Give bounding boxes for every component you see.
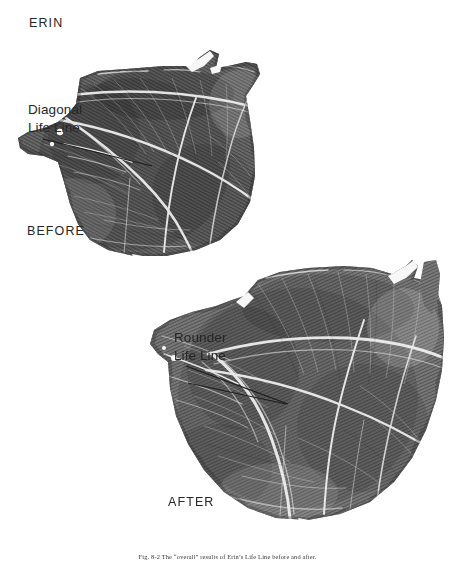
subject-name-label: ERIN [29, 16, 63, 32]
annotation-rounder-line2: Life Line [174, 348, 226, 363]
palm-print-figure: ERIN DiagonalLife Line BEFORE RounderLif… [0, 0, 455, 567]
annotation-rounder-line1: Rounder [174, 330, 227, 345]
annotation-diagonal-life-line: DiagonalLife Line [28, 101, 82, 136]
panel-label-after: AFTER [168, 495, 214, 511]
panel-label-before: BEFORE [27, 224, 85, 240]
annotation-diagonal-line1: Diagonal [28, 102, 82, 117]
annotation-rounder-life-line: RounderLife Line [174, 329, 227, 364]
figure-caption: Fig. 8-2 The “overall” results of Erin’s… [0, 553, 455, 567]
annotation-diagonal-line2: Life Line [28, 120, 80, 135]
